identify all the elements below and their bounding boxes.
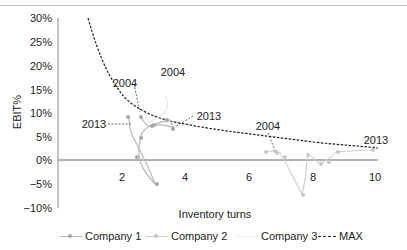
annotation-c2-2004: 2004 — [256, 120, 280, 132]
y-tick-neg5: −5% — [30, 178, 53, 190]
legend-swatch-company-2 — [146, 232, 168, 240]
annotation-c3-2004: 2004 — [161, 66, 185, 78]
legend-swatch-company-1 — [60, 232, 82, 240]
y-tick-15: 15% — [30, 84, 52, 96]
chart-area: 30% 25% 20% 15% 10% 5% 0% −5% −10% 2 4 6… — [0, 0, 407, 250]
legend-item-company-1[interactable]: Company 1 — [60, 230, 141, 242]
company-2-markers — [264, 148, 375, 197]
y-tick-20: 20% — [30, 60, 52, 72]
legend-item-company-2[interactable]: Company 2 — [146, 230, 227, 242]
y-tick-5: 5% — [36, 131, 52, 143]
company-2-line — [266, 150, 372, 194]
legend-swatch-max — [318, 232, 336, 240]
x-tick-10: 10 — [369, 171, 381, 183]
y-tick-neg10: −10% — [24, 202, 53, 214]
legend-label-company-2: Company 2 — [171, 230, 227, 242]
y-tick-30: 30% — [30, 12, 52, 24]
y-axis-label: EBIT% — [11, 95, 23, 129]
annotation-c3-2013: 2013 — [197, 110, 221, 122]
legend-label-company-3: Company 3 — [261, 230, 317, 242]
legend: Company 1 Company 2 Company 3 MAX — [0, 230, 407, 246]
legend-label-max: MAX — [339, 230, 363, 242]
leader-c2-2004 — [268, 133, 274, 148]
legend-label-company-1: Company 1 — [85, 230, 141, 242]
annotation-c1-2013: 2013 — [82, 118, 106, 130]
y-tick-10: 10% — [30, 107, 52, 119]
x-axis-label: Inventory turns — [179, 208, 252, 220]
y-tick-0: 0% — [36, 154, 52, 166]
legend-item-max[interactable]: MAX — [318, 230, 363, 242]
legend-item-company-3[interactable]: Company 3 — [236, 230, 317, 242]
legend-swatch-company-3 — [236, 232, 258, 240]
x-tick-6: 6 — [246, 171, 252, 183]
x-tick-4: 4 — [182, 171, 188, 183]
x-tick-8: 8 — [310, 171, 316, 183]
y-tick-25: 25% — [30, 36, 52, 48]
annotation-c2-2013: 2013 — [364, 134, 388, 146]
x-tick-2: 2 — [119, 171, 125, 183]
annotation-c1-2004: 2004 — [113, 77, 137, 89]
